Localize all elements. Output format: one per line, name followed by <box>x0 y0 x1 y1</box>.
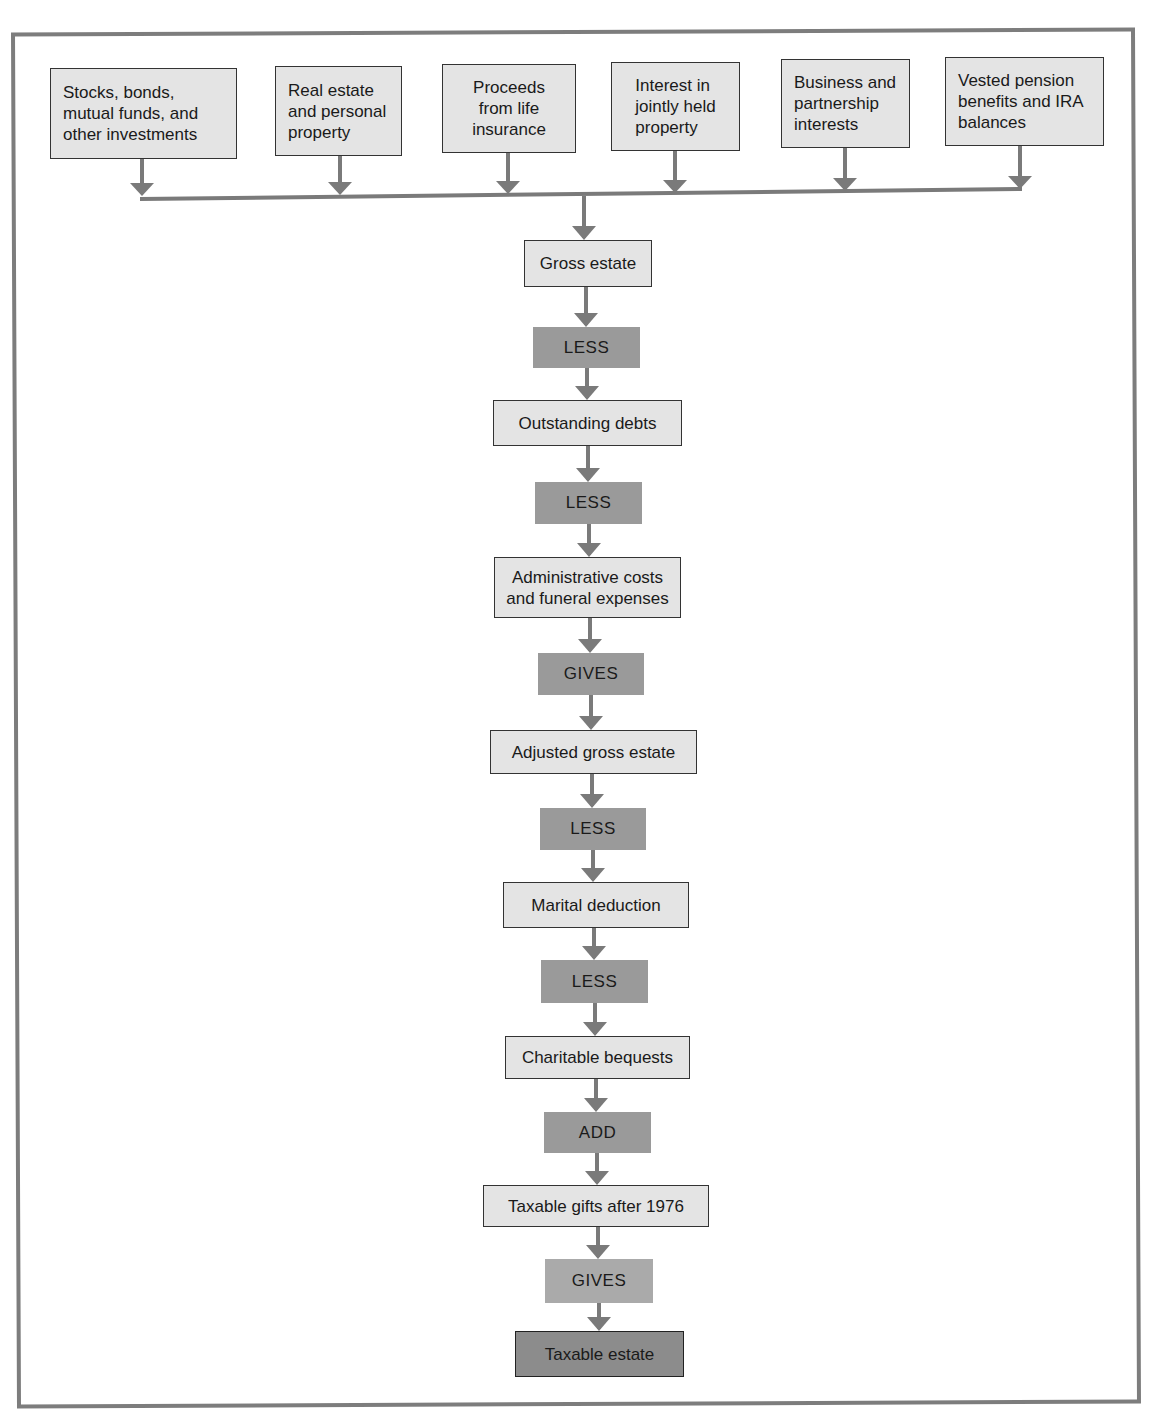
source-label: Vested pension benefits and IRA balances <box>958 70 1084 133</box>
source-life-insurance: Proceeds from life insurance <box>442 64 576 153</box>
op-gives-1: GIVES <box>538 653 644 695</box>
step-label: Marital deduction <box>531 895 660 916</box>
op-label: GIVES <box>564 664 618 684</box>
source-label: Proceeds from life insurance <box>472 77 546 140</box>
step-label: Administrative costs and funeral expense… <box>506 567 669 609</box>
step-taxable-gifts: Taxable gifts after 1976 <box>483 1185 709 1227</box>
step-gross-estate: Gross estate <box>524 240 652 287</box>
op-less-1: LESS <box>533 327 640 368</box>
step-label: Charitable bequests <box>522 1047 673 1068</box>
step-taxable-estate: Taxable estate <box>515 1331 684 1377</box>
op-add: ADD <box>544 1112 651 1153</box>
op-label: LESS <box>564 338 609 358</box>
op-less-3: LESS <box>540 808 646 850</box>
source-jointly-held-property: Interest in jointly held property <box>611 62 740 151</box>
op-less-2: LESS <box>535 482 642 524</box>
op-label: ADD <box>579 1123 616 1143</box>
step-label: Adjusted gross estate <box>512 742 675 763</box>
step-administrative-costs: Administrative costs and funeral expense… <box>494 557 681 618</box>
step-label: Gross estate <box>540 253 636 274</box>
source-label: Business and partnership interests <box>794 72 896 135</box>
step-adjusted-gross-estate: Adjusted gross estate <box>490 730 697 774</box>
source-label: Stocks, bonds, mutual funds, and other i… <box>63 82 198 145</box>
source-investments: Stocks, bonds, mutual funds, and other i… <box>50 68 237 159</box>
step-marital-deduction: Marital deduction <box>503 882 689 928</box>
source-label: Real estate and personal property <box>288 80 386 143</box>
step-label: Taxable estate <box>545 1344 655 1365</box>
op-label: LESS <box>572 972 617 992</box>
op-label: GIVES <box>572 1271 626 1291</box>
step-label: Taxable gifts after 1976 <box>508 1196 684 1217</box>
op-label: LESS <box>570 819 615 839</box>
source-business-interests: Business and partnership interests <box>781 59 910 148</box>
op-gives-2: GIVES <box>545 1259 653 1303</box>
op-label: LESS <box>566 493 611 513</box>
step-outstanding-debts: Outstanding debts <box>493 400 682 446</box>
source-pension-ira: Vested pension benefits and IRA balances <box>945 57 1104 146</box>
op-less-4: LESS <box>541 960 648 1003</box>
source-real-estate: Real estate and personal property <box>275 66 402 156</box>
source-label: Interest in jointly held property <box>635 75 715 138</box>
step-label: Outstanding debts <box>519 413 657 434</box>
step-charitable-bequests: Charitable bequests <box>505 1036 690 1079</box>
